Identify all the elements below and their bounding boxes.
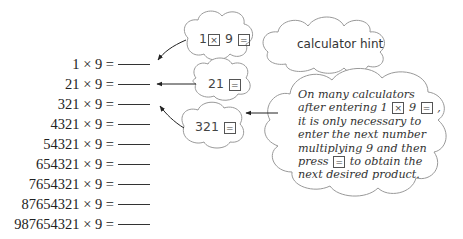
multiply-key-icon: ×: [392, 102, 404, 114]
equation-row: 54321 × 9 =: [43, 136, 150, 156]
calculator-hint-figure: 1 × 9 = 21 × 9 = 321 × 9 = 4321 × 9 = 54…: [0, 0, 463, 239]
answer-blank[interactable]: [118, 124, 150, 125]
answer-blank[interactable]: [118, 204, 150, 205]
multiply-key-icon: ×: [208, 34, 220, 46]
cloud-first-text: 1× 9 =: [199, 31, 251, 46]
hint-title: calculator hint: [297, 37, 383, 51]
answer-blank[interactable]: [118, 84, 150, 85]
answer-blank[interactable]: [118, 184, 150, 185]
equals-key-icon: =: [229, 79, 241, 91]
equation-row: 1 × 9 =: [72, 56, 150, 76]
equation-row: 654321 × 9 =: [36, 156, 150, 176]
answer-blank[interactable]: [118, 104, 150, 105]
equals-key-icon: =: [421, 102, 433, 114]
equation-row: 987654321 × 9 =: [14, 216, 150, 236]
equation-row: 21 × 9 =: [65, 76, 150, 96]
answer-blank[interactable]: [118, 144, 150, 145]
equation-row: 4321 × 9 =: [51, 116, 150, 136]
equation-row: 321 × 9 =: [58, 96, 150, 116]
answer-blank[interactable]: [118, 164, 150, 165]
equals-key-icon: =: [333, 156, 345, 168]
arrow-to-first-equation: [158, 40, 186, 60]
equation-row: 7654321 × 9 =: [29, 176, 150, 196]
equals-key-icon: =: [224, 122, 236, 134]
cloud-third-text: 321 =: [195, 119, 237, 134]
equation-row: 87654321 × 9 =: [22, 196, 150, 216]
arrow-to-third-equation: [160, 106, 184, 128]
hint-body: On many calculators after entering 1 × 9…: [298, 88, 448, 182]
answer-blank[interactable]: [118, 224, 150, 225]
equals-key-icon: =: [238, 34, 250, 46]
cloud-second-text: 21 =: [208, 76, 242, 91]
answer-blank[interactable]: [118, 64, 150, 65]
